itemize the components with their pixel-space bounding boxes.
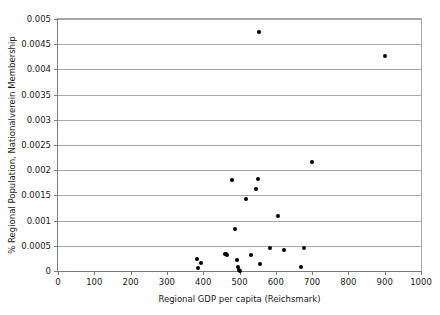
data-point [235,258,239,262]
y-axis-tick [54,69,58,70]
data-point [258,262,262,266]
x-axis-title: Regional GDP per capita (Reichsmark) [57,294,422,304]
y-axis-tick-label: 0.003 [27,115,51,125]
data-point [268,246,272,250]
scatter-chart: % Regional Population, Nationalverein Me… [0,0,440,315]
y-axis-tick [54,246,58,247]
y-axis-tick [54,120,58,121]
x-axis-tick-label: 600 [268,277,284,287]
x-axis-tick-label: 900 [377,277,393,287]
data-point [310,160,314,164]
x-axis-tick [421,271,422,275]
x-axis-tick-label: 800 [340,277,356,287]
y-axis-tick [54,170,58,171]
y-axis-tick-label: 0.0045 [21,39,51,49]
gridline-horizontal [58,246,421,247]
data-point [233,227,237,231]
x-axis-tick [131,271,132,275]
x-axis-tick [348,271,349,275]
y-axis-title-text: % Regional Population, Nationalverein Me… [7,36,17,253]
x-axis-tick [312,271,313,275]
y-axis-tick-label: 0.004 [27,64,51,74]
x-axis-tick-label: 200 [122,277,138,287]
x-axis-tick [167,271,168,275]
data-point [244,197,248,201]
x-axis-tick-label: 400 [195,277,211,287]
x-axis-tick [58,271,59,275]
y-axis-title: % Regional Population, Nationalverein Me… [6,18,18,272]
data-point [254,187,258,191]
x-axis-tick-label: 100 [86,277,102,287]
data-point [230,178,234,182]
x-axis-tick-label: 300 [159,277,175,287]
gridline-horizontal [58,145,421,146]
y-axis-tick [54,44,58,45]
y-axis-tick [54,95,58,96]
data-point [225,253,229,257]
data-point [276,214,280,218]
x-axis-tick [276,271,277,275]
gridline-horizontal [58,44,421,45]
gridline-horizontal [58,221,421,222]
y-axis-tick [54,195,58,196]
data-point [256,177,260,181]
y-axis-tick [54,145,58,146]
y-axis-tick-label: 0.002 [27,165,51,175]
y-axis-tick-label: 0.0005 [21,241,51,251]
gridline-horizontal [58,69,421,70]
x-axis-tick-label: 0 [55,277,60,287]
gridline-horizontal [58,120,421,121]
plot-area: 00.00050.0010.00150.0020.00250.0030.0035… [57,18,422,272]
y-axis-tick [54,221,58,222]
x-axis-tick [203,271,204,275]
gridline-horizontal [58,95,421,96]
gridline-horizontal [58,170,421,171]
y-axis-tick-label: 0.0025 [21,140,51,150]
y-axis-tick-label: 0.001 [27,216,51,226]
x-axis-title-text: Regional GDP per capita (Reichsmark) [158,294,320,304]
y-axis-tick-label: 0 [46,266,51,276]
data-point [196,266,200,270]
y-axis-tick [54,19,58,20]
data-point [257,30,261,34]
data-point [238,269,242,273]
x-axis-tick-label: 500 [231,277,247,287]
x-axis-tick [385,271,386,275]
x-axis-tick-label: 1000 [410,277,432,287]
y-axis-tick-label: 0.005 [27,14,51,24]
gridline-horizontal [58,19,421,20]
y-axis-tick-label: 0.0035 [21,90,51,100]
data-point [383,54,387,58]
data-point [302,246,306,250]
data-point [282,248,286,252]
data-point [199,261,203,265]
y-axis-tick-label: 0.0015 [21,190,51,200]
data-point [249,253,253,257]
x-axis-tick-label: 700 [304,277,320,287]
x-axis-tick [94,271,95,275]
data-point [299,265,303,269]
gridline-horizontal [58,195,421,196]
